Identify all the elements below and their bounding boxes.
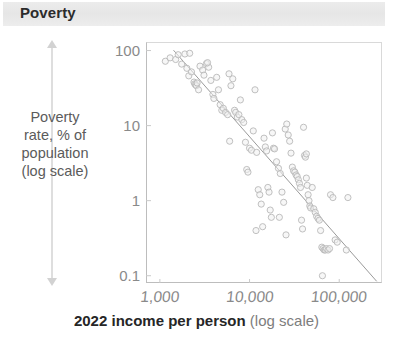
- data-point-111: [319, 273, 325, 279]
- scatter-plot: [146, 42, 382, 283]
- data-point-46: [252, 87, 258, 93]
- data-point-79: [297, 184, 303, 190]
- data-point-42: [245, 169, 251, 175]
- data-point-20: [208, 77, 214, 83]
- data-point-116: [303, 151, 309, 157]
- data-point-70: [287, 138, 293, 144]
- data-point-109: [343, 247, 349, 253]
- y-axis-title-line-3: population: [4, 144, 106, 162]
- data-point-96: [316, 217, 322, 223]
- y-tick-label-100: 100: [115, 43, 140, 58]
- data-point-49: [257, 192, 263, 198]
- x-tick-label-1000: 1,000: [119, 288, 201, 306]
- data-point-104: [326, 245, 332, 251]
- x-tick-label-100000: 100,000: [298, 288, 380, 306]
- y-axis-title-line-2: rate, % of: [4, 126, 106, 144]
- data-point-40: [242, 139, 248, 145]
- data-point-110: [345, 194, 351, 200]
- data-point-113: [276, 214, 282, 220]
- data-point-62: [273, 159, 279, 165]
- y-axis-title: Poverty rate, % of population (log scale…: [4, 108, 106, 180]
- data-point-91: [309, 184, 315, 190]
- data-point-17: [201, 72, 207, 78]
- x-axis-title-muted: (log scale): [250, 312, 319, 329]
- data-point-118: [187, 50, 193, 56]
- data-point-114: [253, 227, 259, 233]
- y-axis-title-line-4: (log scale): [4, 162, 106, 180]
- data-point-85: [303, 175, 309, 181]
- y-axis-title-line-1: Poverty: [4, 108, 106, 126]
- data-point-106: [330, 194, 336, 200]
- page-title: Poverty: [20, 3, 76, 23]
- data-point-71: [288, 150, 294, 156]
- x-axis-tick-labels: 1,00010,000100,000: [120, 288, 393, 310]
- data-point-50: [258, 201, 264, 207]
- data-point-3: [175, 52, 181, 58]
- x-tick-label-10000: 10,000: [209, 288, 291, 306]
- data-point-24: [215, 87, 221, 93]
- data-points: [162, 50, 351, 279]
- data-point-115: [227, 138, 233, 144]
- data-point-81: [299, 226, 305, 232]
- data-point-39: [241, 119, 247, 125]
- arrow-down-icon: [47, 278, 57, 286]
- y-tick-label-1: 1: [132, 193, 140, 208]
- data-point-32: [230, 76, 236, 82]
- data-point-31: [228, 83, 234, 89]
- x-axis-title: 2022 income per person (log scale): [0, 312, 393, 329]
- data-point-45: [250, 128, 256, 134]
- data-point-14: [195, 87, 201, 93]
- y-tick-label-10: 10: [123, 118, 140, 133]
- data-point-58: [268, 214, 274, 220]
- data-point-54: [264, 148, 270, 154]
- data-point-37: [237, 97, 243, 103]
- data-point-69: [285, 132, 291, 138]
- arrow-up-icon: [47, 40, 57, 48]
- x-axis-title-strong: 2022 income per person: [74, 312, 246, 329]
- data-point-65: [279, 189, 285, 195]
- data-point-97: [318, 227, 324, 233]
- data-point-29: [225, 112, 231, 118]
- data-point-47: [254, 149, 260, 155]
- scatter-canvas: [146, 42, 382, 283]
- data-point-22: [211, 95, 217, 101]
- data-point-4: [179, 61, 185, 67]
- data-point-68: [284, 121, 290, 127]
- data-point-51: [260, 224, 266, 230]
- data-point-56: [266, 189, 272, 195]
- data-point-59: [269, 130, 275, 136]
- data-point-23: [214, 74, 220, 80]
- data-point-108: [334, 239, 340, 245]
- data-point-87: [305, 192, 311, 198]
- data-point-57: [267, 207, 273, 213]
- data-point-66: [281, 199, 287, 205]
- data-point-52: [261, 135, 267, 141]
- data-point-64: [277, 170, 283, 176]
- data-point-8: [188, 69, 194, 75]
- data-point-61: [271, 146, 277, 152]
- data-point-80: [298, 217, 304, 223]
- data-point-13: [194, 80, 200, 86]
- data-point-117: [204, 60, 210, 66]
- data-point-82: [300, 124, 306, 130]
- y-tick-label-0.1: 0.1: [119, 268, 140, 283]
- data-point-112: [283, 232, 289, 238]
